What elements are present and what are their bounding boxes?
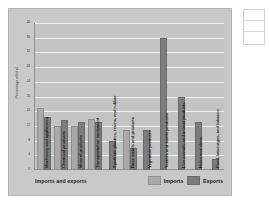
bar-group: Synthetic plastics, resins, and rubber [104, 23, 121, 170]
y-axis-tick: 16 [27, 110, 30, 113]
side-panel [243, 9, 265, 45]
bar-exports [44, 117, 51, 170]
bar-imports [37, 108, 44, 170]
y-axis-tick: 8 [28, 139, 30, 142]
chart-figure: Percentage of total 0481216202428323640 … [8, 8, 232, 196]
bar-imports [88, 119, 95, 170]
bar-exports [130, 148, 137, 170]
bar-exports [143, 130, 150, 170]
y-axis-tick: 20 [27, 95, 30, 98]
bar-group: Textiles and textile products [155, 23, 172, 170]
bar-exports [78, 122, 85, 170]
y-axis-tick: 32 [27, 51, 30, 54]
bar-group: Base metals and products [121, 23, 138, 170]
y-axis-tick: 28 [27, 65, 30, 68]
bar-exports [160, 38, 167, 170]
legend-swatch-exports [187, 176, 200, 185]
legend-swatch-imports [148, 176, 161, 185]
bar-group: Machinery and appliances [35, 23, 52, 170]
legend-label-exports: Exports [203, 178, 223, 184]
y-axis-tick: 24 [27, 80, 30, 83]
x-axis-title: Imports and exports [35, 178, 87, 184]
bar-imports [54, 126, 61, 170]
bar-exports [195, 122, 202, 170]
bar-group: Chemical products [52, 23, 69, 170]
chart-screenshot: Percentage of total 0481216202428323640 … [0, 0, 269, 204]
bar-group: Live animals and animal products [173, 23, 190, 170]
y-axis-tick-labels: 0481216202428323640 [9, 23, 33, 170]
legend-label-imports: Imports [164, 178, 184, 184]
y-axis-tick: 4 [28, 154, 30, 157]
bar-series-container: Machinery and appliancesChemical product… [35, 23, 224, 170]
y-axis-tick: 12 [27, 124, 30, 127]
side-panel-row [244, 32, 264, 43]
bar-exports [109, 141, 116, 170]
bar-group: Transportation equipment [87, 23, 104, 170]
bar-imports [123, 130, 130, 170]
bar-group: Food, beverages, and tobacco [207, 23, 224, 170]
chart-legend: Imports Exports [148, 176, 223, 185]
bar-group: Mineral products [69, 23, 86, 170]
bar-exports [61, 120, 68, 170]
y-axis-tick: 36 [27, 36, 30, 39]
bar-exports [212, 159, 219, 170]
bar-group: Vegetable products [138, 23, 155, 170]
y-axis-tick: 0 [28, 168, 30, 171]
legend-item-imports: Imports [148, 176, 183, 185]
bar-imports [71, 126, 78, 170]
bar-exports [95, 122, 102, 170]
legend-item-exports: Exports [187, 176, 223, 185]
side-panel-row [244, 10, 264, 21]
bar-exports [178, 97, 185, 171]
side-panel-row [244, 21, 264, 32]
bar-group: Hides and skins [190, 23, 207, 170]
y-axis-tick: 40 [27, 21, 30, 24]
